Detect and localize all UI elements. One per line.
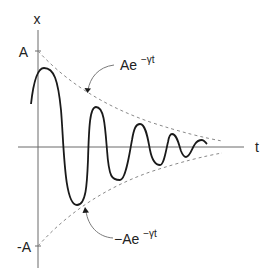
lower-envelope-label: −Ae −γt bbox=[114, 228, 157, 247]
lower-pointer-arrow bbox=[86, 211, 113, 238]
lower-arrowhead-icon bbox=[83, 207, 90, 213]
tick-label-A: A bbox=[19, 44, 29, 60]
upper-pointer-arrow bbox=[88, 65, 114, 90]
lower-envelope-base: −Ae bbox=[114, 231, 140, 247]
damped-oscillation-diagram: x t A -A Ae −γt −Ae −γt bbox=[0, 0, 272, 280]
upper-envelope-exponent: −γt bbox=[141, 54, 155, 65]
upper-envelope-label: Ae −γt bbox=[120, 54, 155, 73]
t-axis-label: t bbox=[255, 139, 259, 155]
upper-envelope-base: Ae bbox=[120, 57, 137, 73]
y-axis-label: x bbox=[34, 11, 41, 27]
lower-envelope-exponent: −γt bbox=[143, 228, 157, 239]
tick-label-minus-A: -A bbox=[17, 239, 32, 255]
